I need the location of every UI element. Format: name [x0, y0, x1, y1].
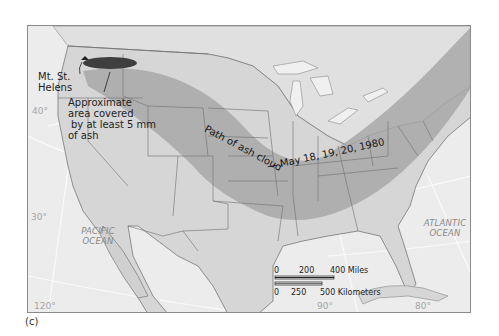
- scale-miles-400: 400 Miles: [330, 266, 368, 275]
- latitude-40-label: 40°: [32, 106, 48, 116]
- figure-caption: (c): [25, 316, 38, 327]
- ocean-label-line: OCEAN: [420, 228, 470, 238]
- ash-area-label-line: Approximate: [68, 97, 156, 108]
- longitude-120-label: 120°: [34, 301, 56, 311]
- ocean-label-line: ATLANTIC: [420, 218, 470, 228]
- ocean-label-line: PACIFIC: [68, 226, 128, 236]
- volcano-label-line: Mt. St.: [38, 71, 72, 82]
- atlantic-ocean-label: ATLANTIC OCEAN: [420, 218, 470, 238]
- ash-area-label-line: of ash: [68, 130, 156, 141]
- ash-area-label-line: by at least 5 mm: [68, 119, 156, 130]
- map-frame: Mt. St. Helens Approximate area covered …: [27, 25, 471, 313]
- longitude-90-label: 90°: [317, 301, 333, 311]
- ash-area-label-line: area covered: [68, 108, 156, 119]
- map-graphic: [28, 26, 471, 313]
- scale-miles-200: 200: [299, 266, 314, 275]
- ocean-label-line: OCEAN: [68, 236, 128, 246]
- scale-km-250: 250: [291, 288, 306, 297]
- volcano-label: Mt. St. Helens: [38, 71, 72, 93]
- scale-km-500: 500 Kilometers: [320, 288, 381, 297]
- scale-km-0: 0: [274, 288, 279, 297]
- volcano-label-line: Helens: [38, 82, 72, 93]
- ash-5mm-area: [83, 57, 137, 69]
- longitude-80-label: 80°: [415, 301, 431, 311]
- latitude-30-label: 30°: [31, 212, 47, 222]
- ash-area-label: Approximate area covered by at least 5 m…: [68, 97, 156, 141]
- pacific-ocean-label: PACIFIC OCEAN: [68, 226, 128, 246]
- scale-miles-0: 0: [274, 266, 279, 275]
